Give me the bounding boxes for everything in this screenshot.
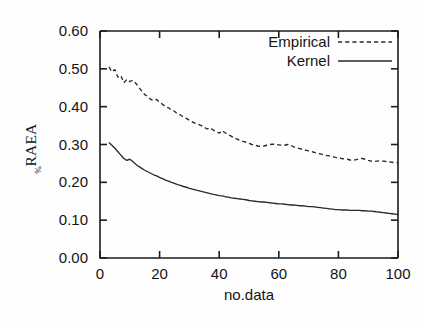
y-tick-label: 0.40	[59, 98, 88, 115]
x-tick-label: 100	[385, 265, 410, 282]
y-tick-label: 0.30	[59, 136, 88, 153]
y-tick-label: 0.10	[59, 211, 88, 228]
y-tick-label: 0.20	[59, 173, 88, 190]
chart-figure: 0.000.100.200.300.400.500.60 02040608010…	[0, 0, 421, 323]
chart-svg: 0.000.100.200.300.400.500.60 02040608010…	[0, 0, 421, 323]
x-tick-label: 20	[151, 265, 168, 282]
x-tick-label: 80	[330, 265, 347, 282]
legend-label-empirical: Empirical	[268, 33, 330, 50]
legend-label-kernel: Kernel	[287, 52, 330, 69]
x-tick-label: 40	[211, 265, 228, 282]
y-tick-label: 0.00	[59, 249, 88, 266]
y-tick-label: 0.60	[59, 22, 88, 39]
y-tick-label: 0.50	[59, 60, 88, 77]
x-tick-label: 60	[270, 265, 287, 282]
y-axis-title: RAEA	[22, 123, 39, 167]
y-axis-title-subscript: %	[33, 166, 43, 174]
x-tick-label: 0	[96, 265, 104, 282]
x-axis-title: no.data	[224, 286, 275, 303]
